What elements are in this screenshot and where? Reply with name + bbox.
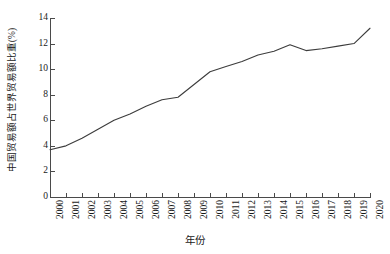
x-axis-title: 年份 [0, 232, 390, 247]
data-series-layer [0, 0, 390, 254]
line-chart-figure: 中国贸易额占世界贸易额比重(%) 02468101214 20002001200… [0, 0, 390, 254]
series-line-china-trade-share [50, 28, 370, 149]
